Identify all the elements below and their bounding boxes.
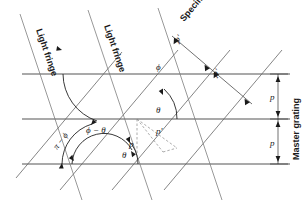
arrowhead-theta-upper [159, 89, 166, 96]
angle-arc-phi [63, 74, 97, 121]
label-pitch-master-upper: p [269, 92, 275, 102]
label-light-fringe-1: Light fringe [34, 27, 60, 77]
label-pitch-specimen-inner: p' [155, 126, 164, 136]
arrowhead-p-lower-top [276, 121, 281, 127]
label-angle-theta-upper: θ [156, 105, 161, 115]
light-fringe-lines [20, 8, 222, 200]
label-angle-phi: ϕ [156, 62, 161, 72]
light-fringe-line-2 [88, 10, 152, 200]
arrowhead-p-lower-bottom [276, 156, 281, 162]
arc-arrowheads [55, 46, 165, 169]
label-angle-theta-lower: θ [122, 150, 127, 160]
diagram-canvas: Light fringe Light fringe Specimen grati… [0, 0, 308, 205]
dashed-cap [163, 148, 177, 152]
label-light-fringe-2: Light fringe [102, 23, 128, 73]
label-master-grating: Master grating [291, 98, 301, 160]
arrowhead-p-upper-bottom [276, 111, 281, 117]
label-pitch-center: p [128, 139, 134, 149]
label-pitch-specimen-upper: p' [171, 32, 184, 45]
label-specimen-grating: Specimen grating [178, 0, 234, 23]
arrowhead-phi [55, 46, 62, 53]
light-fringe-line-1 [20, 14, 82, 200]
moire-fringe-diagram: Light fringe Light fringe Specimen grati… [0, 0, 308, 205]
angle-arc-theta-upper [164, 89, 177, 119]
light-fringe-line-3 [158, 8, 222, 200]
arrowhead-p-upper-top [276, 76, 281, 82]
master-grating-lines [22, 74, 290, 164]
label-angle-phi-minus-theta: ϕ − θ [86, 125, 106, 135]
master-grating-bracket [270, 74, 288, 164]
specimen-grating-line-1 [16, 52, 122, 178]
label-pitch-master-lower: p [269, 138, 275, 148]
specimen-grating-line-4 [164, 50, 282, 190]
